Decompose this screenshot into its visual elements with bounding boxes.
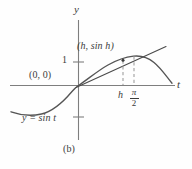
t-tick-label-pi-half: π 2 [127,88,141,108]
point-marker-h-sin-h [122,59,125,62]
secant-line [76,47,166,88]
curve-equation-label: y = sin t [22,113,56,123]
origin-point-label: (0, 0) [29,70,51,80]
pi-half-numerator: π [127,88,141,97]
y-axis-label: y [74,4,79,15]
pi-half-denominator: 2 [127,99,141,108]
figure-panel: y t 1 (0, 0) (h, sin h) h π 2 y = sin t … [0,0,192,169]
point-label-h-sin-h: (h, sin h) [77,41,114,51]
t-axis-label: t [177,79,180,90]
plot-canvas [0,0,192,169]
t-tick-label-h: h [118,90,123,100]
y-tick-label-one: 1 [62,55,67,65]
figure-caption: (b) [63,144,75,154]
